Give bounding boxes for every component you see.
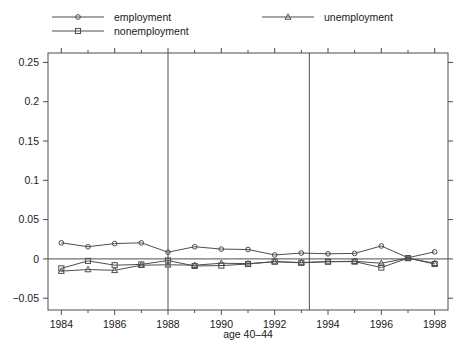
y-axis-tick-labels: −0.0500.050.10.150.20.25 xyxy=(12,56,39,304)
y-tick-label: 0 xyxy=(33,253,39,265)
y-tick-label: 0.15 xyxy=(19,135,40,147)
legend-label-nonemployment: nonemployment xyxy=(114,25,189,37)
legend-item-nonemployment[interactable]: nonemployment xyxy=(52,25,189,37)
legend-item-employment[interactable]: employment xyxy=(52,11,171,23)
y-tick-label: 0.05 xyxy=(19,213,40,225)
y-tick-label: 0.2 xyxy=(24,95,39,107)
chart-legend: employmentnonemploymentunemployment xyxy=(52,11,393,37)
x-tick-label: 1998 xyxy=(423,318,447,330)
data-series xyxy=(58,240,437,273)
x-tick-label: 1986 xyxy=(103,318,127,330)
x-tick-label: 1988 xyxy=(156,318,180,330)
plot-frame xyxy=(48,53,448,310)
y-tick-label: 0.1 xyxy=(24,174,39,186)
chart-container: employmentnonemploymentunemployment −0.0… xyxy=(0,0,461,357)
legend-item-unemployment[interactable]: unemployment xyxy=(262,11,393,23)
axis-ticks xyxy=(43,48,453,315)
line-chart: employmentnonemploymentunemployment −0.0… xyxy=(0,0,461,357)
series-employment xyxy=(59,240,437,260)
x-tick-label: 1996 xyxy=(370,318,394,330)
x-tick-label: 1994 xyxy=(316,318,340,330)
y-tick-label: 0.25 xyxy=(19,56,40,68)
legend-label-employment: employment xyxy=(114,11,171,23)
legend-label-unemployment: unemployment xyxy=(324,11,393,23)
x-axis-title: age 40–44 xyxy=(223,328,273,340)
x-tick-label: 1984 xyxy=(50,318,74,330)
y-tick-label: −0.05 xyxy=(12,292,39,304)
reference-lines xyxy=(48,53,448,310)
plot-border xyxy=(48,53,448,310)
